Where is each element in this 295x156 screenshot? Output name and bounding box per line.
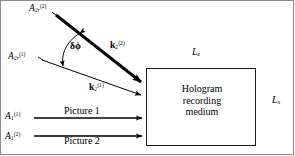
hologram-recording-diagram: A2r(2) A2r(1) δϕ k2(2) k2(1) A1(1) A1(2)… [0, 0, 295, 156]
label-amplitude-reference-1: A2r(1) [8, 52, 26, 62]
label-picture-1: Picture 1 [64, 106, 100, 116]
label-picture-2: Picture 2 [64, 136, 100, 146]
label-amplitude-object-1: A1(1) [5, 112, 20, 122]
hologram-recording-medium-label: Hologram recording medium [147, 83, 257, 118]
label-wavevector-reference-1-sup: (1) [97, 82, 104, 88]
medium-label-line-1: Hologram [147, 83, 257, 95]
label-amplitude-object-2: A1(2) [5, 132, 20, 142]
label-amplitude-reference-2-sup: (2) [40, 3, 47, 9]
leader-line-reference-2 [52, 12, 57, 16]
label-amplitude-object-1-sup: (1) [14, 111, 21, 117]
label-dimension-lx-sub: x [278, 99, 281, 105]
medium-label-line-2: recording [147, 95, 257, 107]
label-dimension-lz-sub: z [198, 51, 200, 57]
label-wavevector-reference-2-sup: (2) [118, 40, 125, 46]
hologram-recording-medium-box: Hologram recording medium [146, 68, 256, 146]
beam-arrow-reference-2 [56, 15, 141, 82]
label-amplitude-object-2-sup: (2) [14, 131, 21, 137]
label-dimension-lx: Lx [272, 95, 280, 105]
label-wavevector-reference-2: k2(2) [110, 41, 125, 51]
label-dimension-lz: Lz [192, 47, 200, 57]
label-wavevector-reference-1: k2(1) [89, 83, 104, 93]
leader-line-reference-1 [38, 57, 43, 60]
label-amplitude-reference-1-sup: (1) [19, 51, 26, 57]
label-angle-delta-phi: δϕ [70, 42, 81, 52]
medium-label-line-3: medium [147, 106, 257, 118]
label-amplitude-reference-2: A2r(2) [29, 4, 47, 14]
